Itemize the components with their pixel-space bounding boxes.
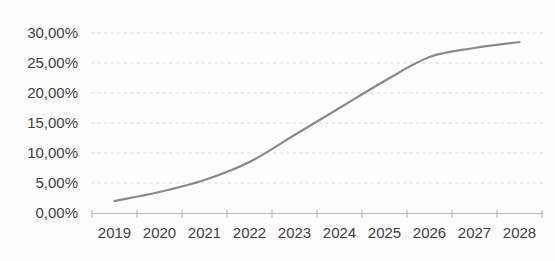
y-axis-tick-label: 30,00% — [27, 24, 78, 41]
x-axis-tick-label: 2020 — [143, 224, 176, 241]
x-axis-tick-label: 2028 — [503, 224, 536, 241]
y-axis-tick-label: 10,00% — [27, 144, 78, 161]
line-chart: 0,00%5,00%10,00%15,00%20,00%25,00%30,00%… — [0, 0, 555, 261]
x-axis-tick-label: 2023 — [278, 224, 311, 241]
y-axis-tick-label: 5,00% — [35, 174, 78, 191]
y-axis-tick-label: 20,00% — [27, 84, 78, 101]
chart-canvas: 0,00%5,00%10,00%15,00%20,00%25,00%30,00%… — [0, 0, 555, 261]
x-axis-tick-label: 2025 — [368, 224, 401, 241]
x-axis-tick-label: 2019 — [98, 224, 131, 241]
series-line — [115, 42, 520, 201]
x-axis-tick-label: 2021 — [188, 224, 221, 241]
x-axis-tick-label: 2024 — [323, 224, 356, 241]
x-axis-tick-label: 2022 — [233, 224, 266, 241]
y-axis-tick-label: 0,00% — [35, 204, 78, 221]
y-axis-tick-label: 25,00% — [27, 54, 78, 71]
x-axis-tick-label: 2027 — [458, 224, 491, 241]
y-axis-tick-label: 15,00% — [27, 114, 78, 131]
x-axis-tick-label: 2026 — [413, 224, 446, 241]
